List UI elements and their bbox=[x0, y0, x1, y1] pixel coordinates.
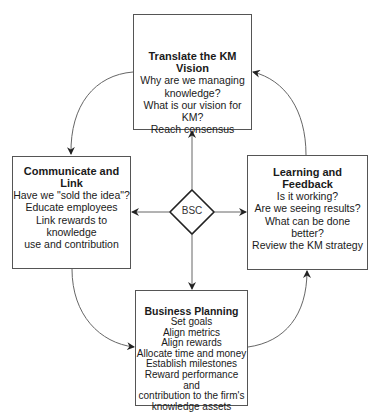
box-line: Set goals bbox=[171, 317, 213, 328]
box-line: Link rewards to knowledge bbox=[13, 214, 130, 238]
box-line: knowledge assets bbox=[152, 402, 232, 413]
box-title: Learning and Feedback bbox=[248, 166, 367, 190]
curve-vision-to-communicate bbox=[71, 72, 133, 154]
curve-planning-to-learning bbox=[248, 271, 307, 347]
box-title: Communicate and Link bbox=[13, 165, 130, 189]
box-line: Review the KM strategy bbox=[252, 239, 363, 251]
box-line: knowledge? bbox=[164, 87, 220, 99]
box-line: Educate employees bbox=[25, 201, 117, 213]
bsc-label: BSC bbox=[177, 205, 207, 216]
curve-communicate-to-planning bbox=[72, 269, 134, 347]
box-line: Is it working? bbox=[277, 190, 338, 202]
box-line: Have we "sold the idea"? bbox=[13, 189, 130, 201]
curve-learning-to-vision bbox=[253, 72, 306, 155]
box-line: Are we seeing results? bbox=[254, 202, 360, 214]
box-line: Reward performance and bbox=[136, 370, 247, 391]
box-learning-feedback: Learning and Feedback Is it working? Are… bbox=[247, 155, 368, 270]
box-business-planning: Business Planning Set goals Align metric… bbox=[135, 290, 248, 406]
box-translate-vision: Translate the KM Vision Why are we manag… bbox=[133, 14, 252, 130]
box-communicate-link: Communicate and Link Have we "sold the i… bbox=[12, 156, 131, 269]
box-line: Reach consensus bbox=[151, 123, 234, 135]
box-line: What can be done better? bbox=[248, 215, 367, 239]
box-line: use and contribution bbox=[24, 238, 119, 250]
box-line: What is our vision for KM? bbox=[134, 99, 251, 123]
box-title: Translate the KM Vision bbox=[134, 50, 251, 74]
box-line: Why are we managing bbox=[140, 74, 244, 86]
